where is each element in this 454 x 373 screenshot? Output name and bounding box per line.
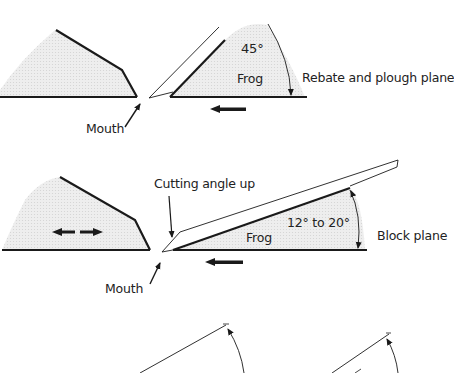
direction-arrow-left-icon: [210, 105, 246, 113]
block-mouth-label: Mouth: [105, 283, 143, 296]
block-sole-left: [2, 177, 150, 250]
cutting-angle-label: Cutting angle up: [154, 178, 255, 191]
bottom-partial-group: [140, 324, 398, 373]
rebate-angle-label: 45°: [241, 42, 263, 55]
block-frog-label: Frog: [246, 232, 272, 245]
direction-arrow-left-icon: [205, 258, 243, 266]
rebate-frog-label: Frog: [237, 73, 263, 86]
block-plane-title: Block plane: [377, 230, 447, 243]
rebate-mouth-label: Mouth: [86, 123, 124, 136]
rebate-sole-left: [0, 30, 137, 97]
rebate-plane-title: Rebate and plough plane: [302, 72, 454, 85]
block-angle-label: 12° to 20°: [287, 217, 350, 230]
